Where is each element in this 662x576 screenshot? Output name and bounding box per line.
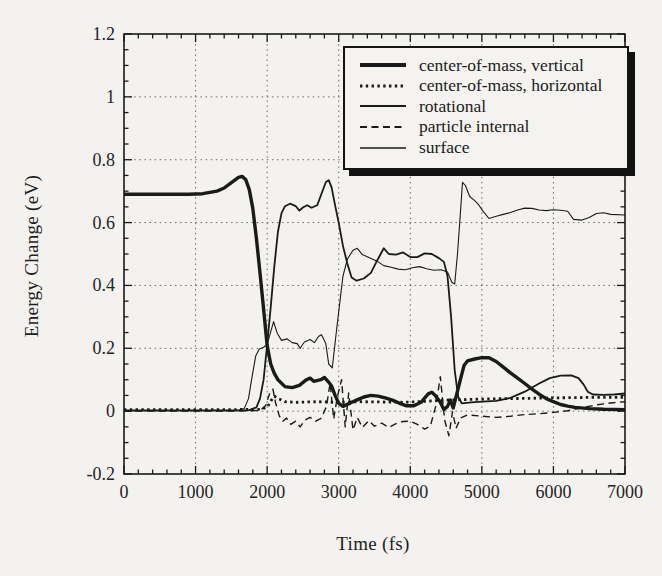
x-tick-label: 4000: [392, 482, 428, 502]
y-tick-label: 0.6: [93, 213, 116, 233]
energy-change-chart: 01000200030004000500060007000-0.200.20.4…: [0, 0, 662, 576]
legend: center-of-mass, vertical center-of-mass,…: [343, 46, 629, 170]
y-tick-label: 0.8: [93, 150, 116, 170]
legend-item-surface: surface: [345, 137, 627, 158]
legend-line-sample: [358, 98, 408, 114]
y-tick-label: 0: [106, 401, 115, 421]
legend-line-sample: [358, 78, 408, 94]
legend-line-sample: [358, 119, 408, 135]
x-axis-label: Time (fs): [0, 533, 662, 555]
legend-item-rotational: rotational: [345, 96, 627, 117]
legend-label: center-of-mass, horizontal: [419, 77, 602, 95]
y-tick-label: 0.4: [93, 275, 116, 295]
legend-line-sample: [358, 57, 408, 73]
y-tick-label: -0.2: [87, 464, 116, 484]
x-tick-label: 0: [120, 482, 129, 502]
y-tick-label: 1: [106, 87, 115, 107]
x-tick-label: 7000: [607, 482, 643, 502]
legend-label: particle internal: [419, 118, 529, 136]
series-line-4: [124, 182, 625, 410]
legend-item-com-horizontal: center-of-mass, horizontal: [345, 76, 627, 97]
legend-label: center-of-mass, vertical: [419, 57, 584, 75]
legend-line-sample: [358, 140, 408, 156]
y-axis-label: Energy Change (eV): [21, 136, 43, 376]
series-line-2: [124, 180, 625, 410]
x-tick-label: 6000: [535, 482, 571, 502]
x-tick-label: 1000: [178, 482, 214, 502]
x-tick-label: 2000: [249, 482, 285, 502]
series-line-3: [124, 377, 625, 436]
legend-item-particle-internal: particle internal: [345, 117, 627, 138]
y-tick-label: 1.2: [93, 24, 116, 44]
y-tick-label: 0.2: [93, 338, 116, 358]
series-line-1: [124, 396, 625, 410]
x-tick-label: 3000: [321, 482, 357, 502]
x-tick-label: 5000: [464, 482, 500, 502]
series-line-0: [124, 176, 625, 409]
legend-label: rotational: [419, 98, 486, 116]
legend-item-com-vertical: center-of-mass, vertical: [345, 55, 627, 76]
legend-label: surface: [419, 139, 470, 157]
